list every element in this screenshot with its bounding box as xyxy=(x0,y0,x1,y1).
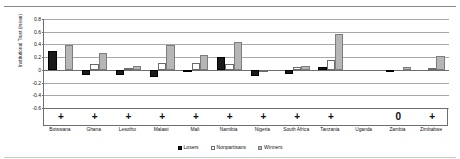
bar-group xyxy=(280,19,314,108)
bar-group xyxy=(314,19,348,108)
bar-winners xyxy=(234,42,242,70)
legend-label: Winners xyxy=(264,145,282,150)
bar-nonpart xyxy=(90,64,98,70)
winners-swatch xyxy=(258,146,262,150)
bar-group xyxy=(247,19,281,108)
significance-marker: 0 xyxy=(382,109,416,125)
bar-nonpart xyxy=(158,63,166,70)
x-axis-category-label: Tanzania xyxy=(313,127,347,132)
bar-winners xyxy=(301,66,309,70)
significance-marker: + xyxy=(415,109,449,125)
bars-layer xyxy=(44,19,449,108)
x-axis-category-label: Botswana xyxy=(43,127,77,132)
bar-losers xyxy=(386,70,394,72)
y-tick-label: -0.4 xyxy=(32,93,41,98)
bar-winners xyxy=(133,66,141,70)
x-axis-category-label: Namibia xyxy=(212,127,246,132)
bar-group xyxy=(348,19,382,108)
top-divider-rule xyxy=(4,6,456,7)
bar-group xyxy=(179,19,213,108)
significance-marker: + xyxy=(145,109,179,125)
nonpartisans-swatch xyxy=(211,146,215,150)
bar-group xyxy=(415,19,449,108)
bar-group xyxy=(78,19,112,108)
legend-label: Losers xyxy=(184,145,199,150)
x-axis-category-label: Uganda xyxy=(347,127,381,132)
bar-winners xyxy=(335,34,343,70)
x-axis-category-label: Nigeria xyxy=(246,127,280,132)
x-axis-category-label: South Africa xyxy=(279,127,313,132)
bar-nonpart xyxy=(293,67,301,70)
significance-marker: + xyxy=(247,109,281,125)
bar-group xyxy=(213,19,247,108)
losers-swatch xyxy=(178,146,182,150)
legend-item: Winners xyxy=(258,145,282,150)
bar-nonpart xyxy=(259,70,267,72)
bar-nonpart xyxy=(124,68,132,70)
x-axis-category-label: Mali xyxy=(178,127,212,132)
bar-group xyxy=(44,19,78,108)
significance-marker: + xyxy=(179,109,213,125)
bar-nonpart xyxy=(428,68,436,70)
significance-marker: + xyxy=(44,109,78,125)
bar-winners xyxy=(403,67,411,70)
y-tick-label: 0.4 xyxy=(34,42,41,47)
bar-winners xyxy=(99,53,107,70)
bar-losers xyxy=(251,70,259,76)
bar-nonpart xyxy=(225,64,233,70)
x-axis-category-label: Lesotho xyxy=(111,127,145,132)
bar-losers xyxy=(116,70,124,75)
chart-legend: LosersNonpartisansWinners xyxy=(0,145,460,150)
bar-losers xyxy=(318,67,326,70)
x-axis-labels: BotswanaGhanaLesothoMalawiMaliNamibiaNig… xyxy=(43,127,448,143)
x-axis-category-label: Ghana xyxy=(77,127,111,132)
significance-marker: + xyxy=(280,109,314,125)
significance-marker: + xyxy=(112,109,146,125)
legend-label: Nonpartisans xyxy=(217,145,246,150)
y-tick-label: 0.2 xyxy=(34,55,41,60)
bar-winners xyxy=(166,45,174,70)
bar-losers xyxy=(82,70,90,75)
bar-group xyxy=(112,19,146,108)
y-tick-label: 0.6 xyxy=(34,29,41,34)
bar-losers xyxy=(48,51,56,69)
bar-losers xyxy=(285,70,293,74)
bar-losers xyxy=(183,70,191,73)
bar-winners xyxy=(65,45,73,70)
bar-group xyxy=(145,19,179,108)
bar-winners xyxy=(436,56,444,70)
y-tick-label: 0 xyxy=(38,67,41,72)
significance-band: +++++++++0+ xyxy=(43,108,448,126)
bar-losers xyxy=(150,70,158,78)
bar-nonpart xyxy=(192,63,200,70)
chart-figure: Institutional Trust (mean) 0.80.60.40.20… xyxy=(0,0,460,159)
significance-marker: + xyxy=(78,109,112,125)
significance-marker: + xyxy=(213,109,247,125)
significance-marker: + xyxy=(314,109,348,125)
bottom-divider-rule xyxy=(4,157,456,158)
x-axis-category-label: Zimbabwe xyxy=(414,127,448,132)
y-tick-label: -0.2 xyxy=(32,80,41,85)
y-axis-title: Institutional Trust (mean) xyxy=(18,0,23,87)
significance-marker xyxy=(348,109,382,125)
bar-nonpart xyxy=(327,60,335,70)
y-tick-label: -0.6 xyxy=(32,106,41,111)
bar-group xyxy=(382,19,416,108)
bar-winners xyxy=(200,55,208,70)
x-axis-category-label: Zambia xyxy=(381,127,415,132)
plot-area: 0.80.60.40.20-0.2-0.4-0.6 xyxy=(43,19,448,108)
legend-item: Nonpartisans xyxy=(211,145,246,150)
bar-losers xyxy=(217,57,225,70)
legend-item: Losers xyxy=(178,145,199,150)
y-tick-label: 0.8 xyxy=(34,17,41,22)
x-axis-category-label: Malawi xyxy=(144,127,178,132)
